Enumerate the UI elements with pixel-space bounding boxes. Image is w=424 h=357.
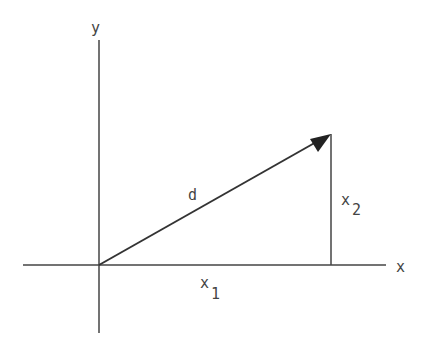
x2-label-sub: 2 [352,201,361,219]
arrowhead-icon [310,134,331,152]
vector-diagram: y x d x 1 x 2 [0,0,424,357]
y-axis-label: y [91,19,100,37]
x2-label-base: x [341,191,350,209]
vector-d-line [99,141,318,265]
x1-label-base: x [200,274,209,292]
x1-label-sub: 1 [211,285,220,303]
x-axis-label: x [396,258,405,276]
vector-label: d [188,186,197,204]
